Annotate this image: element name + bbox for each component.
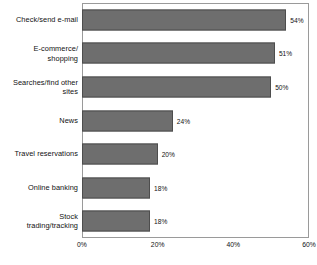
bar — [82, 177, 150, 198]
bar — [82, 9, 286, 30]
x-tick-label: 60% — [302, 241, 316, 249]
bar-value-label: 50% — [275, 83, 288, 90]
category-label: News — [0, 116, 78, 125]
category-label: Online banking — [0, 183, 78, 192]
x-tick-label: 40% — [227, 241, 241, 249]
bar-value-label: 51% — [279, 50, 292, 57]
category-label: Stock trading/tracking — [0, 212, 78, 230]
bar-value-label: 54% — [290, 16, 303, 23]
category-label: Check/send e-mail — [0, 15, 78, 24]
bar-value-label: 18% — [154, 218, 167, 225]
x-tick-label: 20% — [151, 241, 165, 249]
bar-value-label: 18% — [154, 184, 167, 191]
bars-layer: 54%51%50%24%20%18%18% — [82, 3, 309, 238]
bar — [82, 144, 158, 165]
bar-value-label: 20% — [162, 151, 175, 158]
category-label: E-commerce/ shopping — [0, 44, 78, 62]
category-axis-labels: Check/send e-mailE-commerce/ shoppingSea… — [0, 3, 78, 238]
bar — [82, 211, 150, 232]
x-tick-label: 0% — [77, 241, 87, 249]
category-label: Searches/find other sites — [0, 78, 78, 96]
bar-value-label: 24% — [177, 117, 190, 124]
x-axis: 0%20%40%60% — [82, 238, 309, 252]
bar — [82, 76, 271, 97]
bar — [82, 43, 275, 64]
bar — [82, 110, 173, 131]
bar-chart-figure: Check/send e-mailE-commerce/ shoppingSea… — [0, 0, 317, 265]
category-label: Travel reservations — [0, 149, 78, 158]
